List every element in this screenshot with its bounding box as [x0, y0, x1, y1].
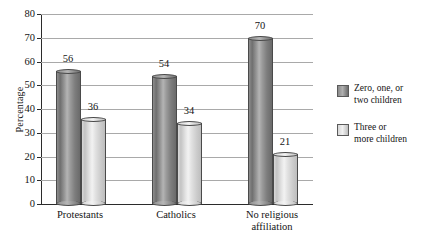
bar-catholics-zero-to-two [152, 76, 177, 204]
legend-label-zero-to-two-line2: two children [354, 95, 423, 107]
y-tick-label-40: 40 [25, 104, 36, 115]
x-axis-label-no-affiliation: No religious affiliation [212, 209, 332, 233]
tickmark-50 [37, 85, 41, 86]
plot-area: 80 70 60 50 40 30 20 [41, 14, 313, 204]
y-tick-label-70: 70 [25, 33, 36, 44]
bar-cap [248, 36, 273, 41]
bar-bottom-cap [152, 201, 177, 206]
legend-label-three-plus-line2: more children [354, 134, 423, 146]
tickmark-30 [37, 133, 41, 134]
value-label-catholics-three-plus: 34 [174, 106, 204, 117]
value-label-protestants-zero-to-two: 56 [53, 54, 83, 65]
y-axis-title: Percentage [14, 60, 25, 160]
y-tick-label-0: 0 [30, 199, 35, 210]
bar-cap [177, 121, 202, 126]
bar-cap [56, 69, 81, 74]
y-tick-label-20: 20 [25, 151, 36, 162]
x-axis-label-no-affiliation-line2: affiliation [251, 221, 292, 232]
legend-label-three-plus: Three or more children [354, 122, 423, 145]
tickmark-0 [37, 204, 41, 205]
legend-item-zero-to-two: Zero, one, or two children [335, 84, 423, 110]
x-axis-label-catholics-line1: Catholics [156, 209, 196, 220]
legend-label-zero-to-two-line1: Zero, one, or [354, 83, 403, 93]
bar-no-affiliation-zero-to-two [248, 38, 273, 204]
bar-bottom-cap [81, 201, 106, 206]
value-label-no-affiliation-zero-to-two: 70 [245, 21, 275, 32]
legend-label-zero-to-two: Zero, one, or two children [354, 83, 423, 106]
tickmark-20 [37, 157, 41, 158]
y-tick-label-30: 30 [25, 128, 36, 139]
x-axis-label-protestants-line1: Protestants [57, 209, 103, 220]
tickmark-80 [37, 14, 41, 15]
tickmark-40 [37, 109, 41, 110]
legend-swatch-icon-zero-to-two [337, 85, 349, 97]
bar-catholics-three-plus [177, 123, 202, 204]
bar-no-affiliation-three-plus [273, 154, 298, 204]
tickmark-60 [37, 62, 41, 63]
bar-protestants-three-plus [81, 119, 106, 205]
gridline-80 [41, 14, 313, 15]
bar-bottom-cap [273, 201, 298, 206]
y-tick-label-50: 50 [25, 80, 36, 91]
legend-item-three-plus: Three or more children [335, 123, 423, 149]
bar-cap [273, 152, 298, 157]
bar-cap [81, 117, 106, 122]
x-axis-label-no-affiliation-line1: No religious [246, 209, 298, 220]
legend: Zero, one, or two children Three or more… [335, 84, 423, 162]
tickmark-10 [37, 180, 41, 181]
value-label-protestants-three-plus: 36 [78, 102, 108, 113]
bar-protestants-zero-to-two [56, 71, 81, 204]
value-label-catholics-zero-to-two: 54 [149, 59, 179, 70]
y-tick-label-10: 10 [25, 175, 36, 186]
bar-cap [152, 74, 177, 79]
bar-bottom-cap [177, 201, 202, 206]
bar-bottom-cap [248, 201, 273, 206]
legend-label-three-plus-line1: Three or [354, 122, 386, 132]
bar-bottom-cap [56, 201, 81, 206]
value-label-no-affiliation-three-plus: 21 [270, 137, 300, 148]
y-tick-label-60: 60 [25, 56, 36, 67]
bar-chart: Percentage 80 70 60 50 40 [0, 0, 423, 248]
tickmark-70 [37, 38, 41, 39]
legend-swatch-icon-three-plus [337, 124, 349, 136]
y-tick-label-80: 80 [25, 9, 36, 20]
